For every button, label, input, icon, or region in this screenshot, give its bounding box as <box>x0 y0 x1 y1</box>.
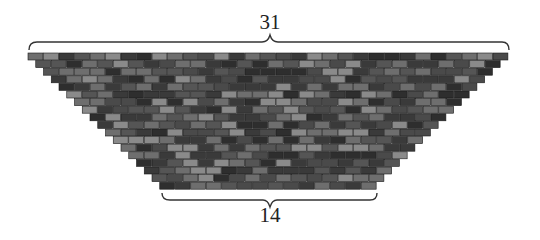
brick <box>237 167 252 174</box>
brick <box>144 137 159 144</box>
brick <box>338 114 353 121</box>
brick <box>121 83 136 90</box>
brick <box>416 53 431 60</box>
brick <box>323 159 338 166</box>
brick <box>369 83 384 90</box>
brick <box>478 68 493 75</box>
brick <box>113 76 128 83</box>
brick <box>361 167 376 174</box>
brick <box>439 61 454 68</box>
brick <box>439 91 454 98</box>
brick <box>447 68 462 75</box>
brick <box>129 106 144 113</box>
brick <box>447 99 462 106</box>
brick <box>168 83 183 90</box>
brick <box>454 61 469 68</box>
brick <box>245 68 260 75</box>
brick <box>152 175 167 182</box>
brick <box>354 83 369 90</box>
brick <box>478 53 493 60</box>
brick <box>346 106 361 113</box>
brick <box>299 182 314 189</box>
brick <box>369 159 384 166</box>
brick <box>137 53 152 60</box>
brick <box>315 137 330 144</box>
brick <box>129 76 144 83</box>
brick <box>75 83 90 90</box>
brick <box>470 76 485 83</box>
brick <box>183 159 198 166</box>
brick <box>408 137 423 144</box>
brick <box>385 83 400 90</box>
brick <box>144 121 159 128</box>
brick <box>330 137 345 144</box>
brick <box>183 129 198 136</box>
brick <box>214 144 229 151</box>
brick <box>222 121 237 128</box>
brick <box>400 68 415 75</box>
brick <box>338 159 353 166</box>
brick <box>338 99 353 106</box>
brick <box>59 68 74 75</box>
brick <box>214 99 229 106</box>
brick <box>191 121 206 128</box>
brick <box>206 61 221 68</box>
brick <box>121 68 136 75</box>
brick <box>323 68 338 75</box>
brick <box>261 129 276 136</box>
brick <box>307 114 322 121</box>
brick <box>160 137 175 144</box>
brick <box>392 152 407 159</box>
brick <box>369 129 384 136</box>
brick <box>299 167 314 174</box>
brick <box>276 159 291 166</box>
brick <box>361 137 376 144</box>
brick <box>129 121 144 128</box>
brick <box>183 175 198 182</box>
brick <box>230 114 245 121</box>
brick <box>245 144 260 151</box>
brick <box>284 137 299 144</box>
brick <box>245 129 260 136</box>
brick <box>361 106 376 113</box>
brick <box>206 152 221 159</box>
brick <box>447 53 462 60</box>
brick <box>237 121 252 128</box>
brick <box>129 61 144 68</box>
brick <box>392 121 407 128</box>
brick <box>268 76 283 83</box>
brick <box>338 68 353 75</box>
brick <box>191 137 206 144</box>
brick <box>175 61 190 68</box>
brick <box>199 83 214 90</box>
brick <box>82 91 97 98</box>
brick <box>392 61 407 68</box>
brick <box>98 91 113 98</box>
brick <box>160 167 175 174</box>
brick <box>152 99 167 106</box>
brick <box>137 114 152 121</box>
brick <box>392 137 407 144</box>
brick <box>206 137 221 144</box>
brick <box>276 68 291 75</box>
brick <box>400 53 415 60</box>
brick <box>191 182 206 189</box>
brick <box>284 106 299 113</box>
brick <box>44 53 59 60</box>
brick <box>245 159 260 166</box>
brick <box>385 99 400 106</box>
brick <box>377 137 392 144</box>
brick <box>253 167 268 174</box>
brick <box>315 152 330 159</box>
brick <box>168 114 183 121</box>
brick <box>121 129 136 136</box>
brick <box>199 53 214 60</box>
brick <box>354 159 369 166</box>
brick <box>253 61 268 68</box>
brick <box>261 114 276 121</box>
brick <box>98 106 113 113</box>
brick <box>268 91 283 98</box>
brick <box>284 121 299 128</box>
brick <box>284 167 299 174</box>
brick <box>268 121 283 128</box>
